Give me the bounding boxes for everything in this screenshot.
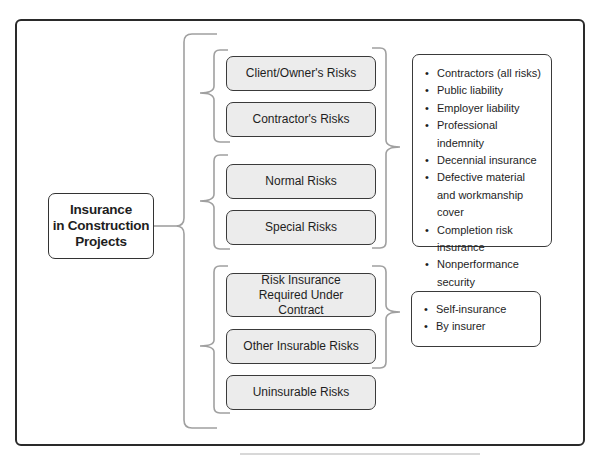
list-item: Self-insurance — [420, 301, 534, 318]
list-item: Nonperformance security — [421, 256, 545, 291]
list-item: Completion risk insurance — [421, 222, 545, 257]
node-client-owner-risks: Client/Owner's Risks — [226, 56, 376, 91]
list-item: Defective material and workmanship cover — [421, 169, 545, 221]
cropped-caption — [240, 449, 480, 458]
node-uninsurable-risks: Uninsurable Risks — [226, 375, 376, 410]
root-line: Projects — [53, 234, 150, 250]
main-bracket-curve — [176, 34, 217, 428]
node-label: Risk Insurance Required Under Contract — [239, 273, 363, 318]
root-line: Insurance — [53, 202, 150, 218]
insurance-types-list: Contractors (all risks) Public liability… — [412, 54, 552, 247]
node-label: Special Risks — [265, 220, 337, 235]
list-item: Public liability — [421, 82, 545, 99]
insurance-providers-list: Self-insurance By insurer — [411, 291, 541, 347]
root-node-insurance-in-construction: Insurance in Construction Projects — [48, 193, 154, 259]
list-item: By insurer — [420, 318, 534, 335]
list-item: Decennial insurance — [421, 152, 545, 169]
list-item: Employer liability — [421, 100, 545, 117]
node-special-risks: Special Risks — [226, 210, 376, 245]
list-item: Contractors (all risks) — [421, 65, 545, 82]
list-item: Professional indemnity — [421, 117, 545, 152]
node-label: Normal Risks — [265, 174, 336, 189]
node-other-insurable-risks: Other Insurable Risks — [226, 329, 376, 364]
right-bracket-2 — [372, 266, 400, 368]
node-label: Other Insurable Risks — [243, 339, 358, 354]
root-line: in Construction — [53, 218, 150, 234]
node-label: Client/Owner's Risks — [246, 66, 356, 81]
right-bracket-1 — [372, 48, 400, 248]
node-contractor-risks: Contractor's Risks — [226, 102, 376, 137]
node-label: Uninsurable Risks — [253, 385, 350, 400]
node-label: Contractor's Risks — [253, 112, 350, 127]
node-risk-insurance-required: Risk Insurance Required Under Contract — [226, 273, 376, 317]
node-normal-risks: Normal Risks — [226, 164, 376, 199]
